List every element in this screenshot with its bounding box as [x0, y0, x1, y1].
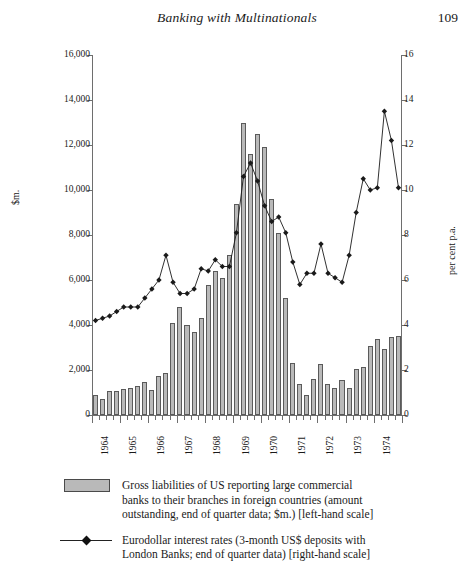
x-tick-minor: [339, 416, 340, 420]
x-tick-minor: [296, 416, 297, 420]
x-tick-label: 1972: [325, 436, 335, 455]
x-tick-minor: [226, 416, 227, 420]
x-tick-label: 1966: [156, 436, 166, 455]
legend-line: Gross liabilities of US reporting large …: [122, 478, 458, 493]
page-title: Banking with Multinationals: [0, 10, 474, 26]
x-tick-major: [346, 416, 347, 423]
x-tick-label: 1969: [241, 436, 251, 455]
legend-label-bars: Gross liabilities of US reporting large …: [122, 478, 458, 522]
y-tick-label-left: 12,000: [64, 139, 90, 149]
x-tick-minor: [254, 416, 255, 420]
line-marker: 1970Q1: 9.3: [262, 203, 267, 208]
line-path: [96, 111, 399, 320]
x-tick-minor: [282, 416, 283, 420]
legend-line: Eurodollar interest rates (3-month US$ d…: [122, 533, 458, 548]
x-tick-minor: [184, 416, 185, 420]
x-tick-major: [374, 416, 375, 423]
line-marker: 1972Q4: 5.9: [339, 280, 344, 285]
eurodollar-rate-line: 1964Q1: 4.21964Q2: 4.31964Q3: 4.41964Q4:…: [92, 55, 402, 415]
line-marker: 1970Q4: 8.1: [283, 230, 288, 235]
x-tick-minor: [325, 416, 326, 420]
x-tick-minor: [191, 416, 192, 420]
y-axis-title-right: per cent p.a.: [446, 226, 457, 275]
line-marker: 1967Q1: 5.4: [177, 291, 182, 296]
line-marker: 1974Q1: 10.1: [375, 185, 380, 190]
x-tick-minor: [381, 416, 382, 420]
x-tick-minor: [99, 416, 100, 420]
x-tick-minor: [310, 416, 311, 420]
x-tick-minor: [198, 416, 199, 420]
legend-label-line: Eurodollar interest rates (3-month US$ d…: [122, 533, 458, 562]
x-tick-minor: [303, 416, 304, 420]
line-marker: 1969Q4: 10.4: [255, 178, 260, 183]
x-tick-minor: [388, 416, 389, 420]
line-series: 1964Q1: 4.21964Q2: 4.31964Q3: 4.41964Q4:…: [92, 55, 402, 415]
y-tick-label-right: 0: [404, 409, 409, 419]
x-tick-minor: [240, 416, 241, 420]
x-tick-minor: [134, 416, 135, 420]
legend-item-bars: Gross liabilities of US reporting large …: [58, 478, 458, 522]
y-tick-label-right: 6: [404, 274, 409, 284]
legend-item-line: Eurodollar interest rates (3-month US$ d…: [58, 533, 458, 562]
legend-swatch-line: [58, 534, 116, 548]
x-tick-major: [261, 416, 262, 423]
legend-line: banks to their branches in foreign count…: [122, 493, 458, 508]
line-marker: 1970Q3: 8.8: [276, 214, 281, 219]
line-marker: 1970Q2: 8.6: [269, 219, 274, 224]
x-tick-minor: [212, 416, 213, 420]
line-marker: 1974Q2: 13.5: [382, 109, 387, 114]
y-tick-label-right: 4: [404, 319, 409, 329]
legend-swatch-bar: [58, 479, 116, 493]
x-tick-minor: [360, 416, 361, 420]
line-marker: 1974Q3: 12.2: [389, 138, 394, 143]
line-marker: 1968Q1: 6.4: [206, 268, 211, 273]
x-tick-minor: [155, 416, 156, 420]
line-marker: 1971Q3: 6.3: [304, 271, 309, 276]
y-tick-label-left: 14,000: [64, 94, 90, 104]
x-tick-minor: [275, 416, 276, 420]
x-tick-label: 1970: [269, 436, 279, 455]
y-tick-label-left: 4,000: [69, 319, 90, 329]
x-tick-minor: [170, 416, 171, 420]
y-tick-label-left: 10,000: [64, 184, 90, 194]
x-tick-major: [289, 416, 290, 423]
x-tick-major: [148, 416, 149, 423]
x-tick-minor: [162, 416, 163, 420]
line-marker: 1969Q3: 11.2: [248, 160, 253, 165]
line-marker: 1966Q4: 5.9: [170, 280, 175, 285]
line-marker: 1971Q4: 6.3: [311, 271, 316, 276]
y-tick-label-left: 16,000: [64, 49, 90, 59]
x-axis-labels: 1964196519661967196819691970197119721973…: [92, 424, 402, 464]
y-tick-label-right: 14: [404, 94, 414, 104]
line-marker: 1973Q3: 10.5: [361, 176, 366, 181]
y-tick-label-left: 6,000: [69, 274, 90, 284]
line-marker: 1966Q3: 7.1: [163, 253, 168, 258]
x-tick-major: [177, 416, 178, 423]
x-tick-minor: [247, 416, 248, 420]
line-marker: 1964Q3: 4.4: [107, 313, 112, 318]
x-tick-minor: [219, 416, 220, 420]
line-marker: 1965Q2: 4.8: [128, 304, 133, 309]
x-tick-label: 1973: [353, 436, 363, 455]
x-tick-label: 1965: [128, 436, 138, 455]
x-tick-minor: [353, 416, 354, 420]
y-tick-label-right: 16: [404, 49, 414, 59]
x-tick-minor: [106, 416, 107, 420]
x-tick-minor: [332, 416, 333, 420]
line-marker: 1967Q3: 5.6: [191, 286, 196, 291]
line-swatch-icon: [58, 534, 116, 547]
y-tick-label-left: 2,000: [69, 364, 90, 374]
line-marker: 1972Q3: 6.1: [332, 275, 337, 280]
page-number: 109: [438, 10, 458, 26]
page: Banking with Multinationals 109 $m. per …: [0, 0, 474, 570]
y-tick-label-left: 8,000: [69, 229, 90, 239]
line-marker: 1971Q1: 6.8: [290, 259, 295, 264]
y-tick-label-right: 8: [404, 229, 409, 239]
x-tick-minor: [113, 416, 114, 420]
line-marker: 1969Q1: 8.1: [234, 230, 239, 235]
x-tick-label: 1968: [212, 436, 222, 455]
x-tick-label: 1964: [100, 436, 110, 455]
line-marker: 1967Q2: 5.4: [184, 291, 189, 296]
line-marker: 1965Q1: 4.8: [121, 304, 126, 309]
line-marker: 1969Q2: 10.6: [241, 174, 246, 179]
